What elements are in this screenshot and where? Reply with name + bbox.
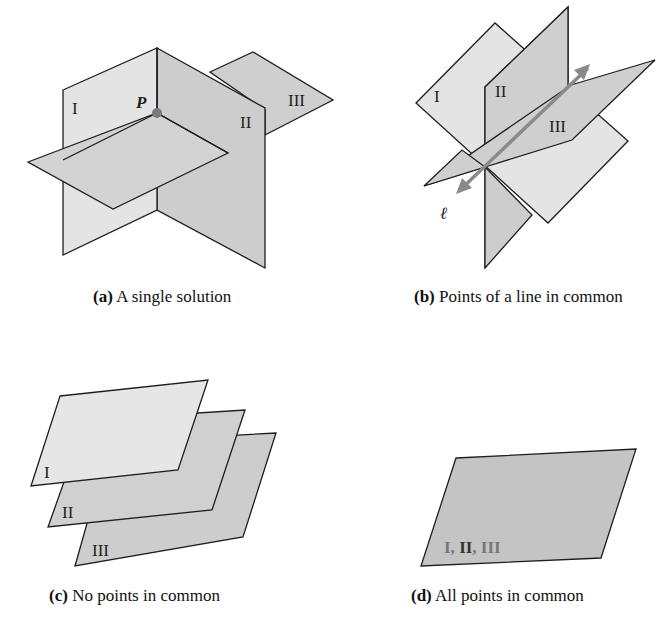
label-plane-ii-b: II [495, 82, 507, 101]
planes-figure: I II III P (a) A single solution I II II… [0, 0, 669, 639]
label-plane-iii-a: III [288, 91, 305, 110]
intersection-point-p [152, 108, 162, 118]
label-plane-iii-c: III [92, 541, 109, 560]
caption-a: (a) A single solution [93, 287, 232, 306]
label-plane-i-c: I [44, 463, 50, 482]
label-plane-i-a: I [72, 99, 78, 118]
panel-b: I II III ℓ (b) Points of a line in commo… [414, 7, 655, 306]
label-plane-iii-b: III [549, 117, 566, 136]
panel-d: I, II, III (d) All points in common [411, 449, 636, 605]
caption-d: (d) All points in common [411, 586, 584, 605]
panel-c: I II III (c) No points in common [31, 380, 276, 605]
label-combined-d: I, II, III [444, 538, 501, 557]
label-plane-ii-c: II [62, 503, 74, 522]
label-point-p: P [135, 93, 147, 112]
panel-a: I II III P (a) A single solution [28, 48, 333, 306]
label-line-l: ℓ [440, 204, 447, 223]
label-plane-i-b: I [434, 87, 440, 106]
label-plane-ii-a: II [240, 113, 252, 132]
caption-c: (c) No points in common [49, 586, 220, 605]
caption-b: (b) Points of a line in common [414, 287, 623, 306]
